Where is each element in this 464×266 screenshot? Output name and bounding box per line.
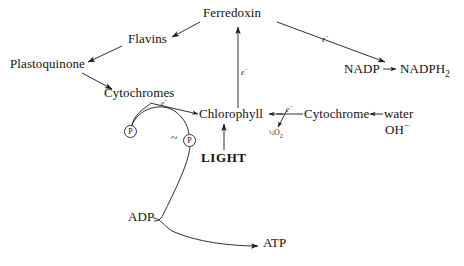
- node-chlorophyll: Chlorophyll: [199, 107, 263, 121]
- node-phosphate-1: P: [124, 125, 137, 138]
- edge-cytochromes-phosphate1: [132, 104, 150, 126]
- hydroxide-text: OH: [385, 122, 404, 137]
- node-hydroxide: OH−: [385, 122, 409, 137]
- node-adp: ADP: [128, 210, 154, 224]
- edge-adp-atp: [153, 218, 258, 246]
- electron-charge: −: [325, 33, 328, 39]
- node-ferredoxin: Ferredoxin: [203, 6, 261, 20]
- edge-cytochromes-chlorophyll: [150, 103, 198, 114]
- edge-flavins-plastoquinone: [88, 46, 122, 62]
- edge-ferredoxin-nadp: [277, 22, 385, 62]
- node-plastoquinone: Plastoquinone: [10, 57, 85, 71]
- electron-label-cytochrome-chlorophyll: e−: [286, 103, 293, 114]
- node-cytochrome: Cytochrome: [304, 107, 369, 121]
- electron-label-cytochromes-chlorophyll: e−: [161, 97, 168, 108]
- oxygen-subscript: 2: [280, 133, 283, 139]
- hydroxide-charge: −: [404, 121, 409, 131]
- nadph2-text: NADPH: [400, 61, 445, 76]
- node-water: water: [384, 107, 413, 121]
- edge-phosphate1-phosphate2: [130, 107, 189, 134]
- node-half-oxygen: ½O2: [269, 128, 283, 139]
- electron-charge: −: [244, 66, 247, 72]
- electron-label-chlorophyll-ferredoxin: e−: [241, 66, 248, 77]
- bond-tilde: ~: [171, 131, 178, 146]
- node-atp: ATP: [263, 236, 286, 250]
- node-light: LIGHT: [201, 151, 247, 165]
- nadph2-subscript: 2: [445, 69, 450, 79]
- edge-ferredoxin-flavins: [172, 22, 200, 37]
- node-flavins: Flavins: [128, 32, 167, 46]
- node-nadph2: NADPH2: [400, 62, 450, 79]
- electron-charge: −: [164, 97, 167, 103]
- node-nadp: NADP: [344, 62, 380, 76]
- edge-phosphate2-adp: [154, 147, 190, 221]
- photosynthesis-diagram: Ferredoxin Flavins Plastoquinone Cytochr…: [0, 0, 464, 266]
- node-phosphate-2: P: [183, 134, 196, 147]
- electron-charge: −: [289, 103, 292, 109]
- electron-label-ferredoxin-nadp: e−: [322, 33, 329, 44]
